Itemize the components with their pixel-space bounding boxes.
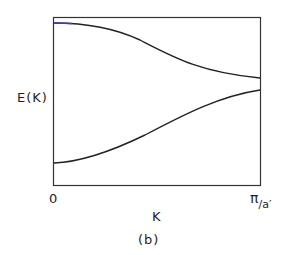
band-structure-figure: E(K) 0 K π/a′ (b): [0, 0, 289, 255]
plot-frame: [54, 18, 261, 186]
a-prime: a′: [262, 198, 271, 211]
x-axis-label: K: [152, 210, 161, 223]
x-tick-zero: 0: [49, 192, 57, 205]
figure-caption: (b): [138, 233, 159, 246]
x-tick-pi-over-a: π/a′: [250, 191, 271, 205]
plot-canvas: [0, 0, 289, 255]
upper-band-start-segment: [54, 23, 72, 24]
lower-band-curve: [54, 90, 260, 163]
y-axis-label: E(K): [17, 91, 48, 104]
upper-band-curve: [54, 23, 260, 78]
